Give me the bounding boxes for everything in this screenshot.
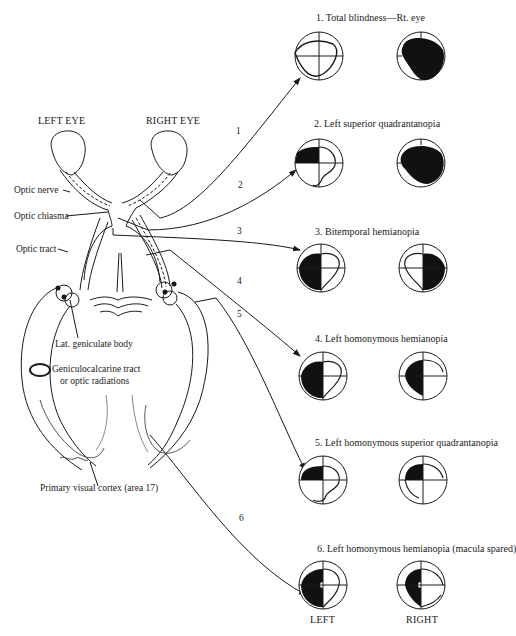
lat-geniculate-body-label: Lat. geniculate body <box>55 340 133 350</box>
right-eye-label: RIGHT EYE <box>146 115 200 126</box>
field-5-left <box>299 456 347 504</box>
primary-visual-cortex-label: Primary visual cortex (area 17) <box>40 484 158 494</box>
lesion-line-4 <box>146 250 300 356</box>
field-4-left <box>299 352 347 400</box>
lesion-number-5: 5 <box>237 309 242 319</box>
field-2-left <box>295 139 343 187</box>
lesion-line-5 <box>195 298 305 470</box>
field-1-left <box>295 32 343 80</box>
caption-3: 3. Bitemporal hemianopia <box>315 226 419 237</box>
lesion-line-3 <box>113 228 300 250</box>
field-1-right <box>397 32 445 80</box>
lesion-line-2 <box>118 170 296 230</box>
lesion-number-3: 3 <box>237 226 242 236</box>
field-5-right <box>399 456 447 504</box>
right-eyeball <box>151 131 187 175</box>
caption-2: 2. Left superior quadrantanopia <box>314 118 440 129</box>
caption-6: 6. Left homonymous hemianopia (macula sp… <box>317 543 516 554</box>
optic-tract-label: Optic tract <box>16 245 56 255</box>
left-column-label: LEFT <box>310 614 335 625</box>
left-eye-label: LEFT EYE <box>38 115 85 126</box>
optic-chiasma-label: Optic chiasma <box>14 212 69 222</box>
field-6-right <box>397 561 445 609</box>
geniculocalcarine-tract-label: Geniculocalcarine tract <box>52 365 140 375</box>
right-column-label: RIGHT <box>406 614 438 625</box>
field-4-right <box>399 352 447 400</box>
optic-nerve-label: Optic nerve <box>14 186 59 196</box>
caption-5: 5. Left homonymous superior quadrantanop… <box>315 437 498 448</box>
field-2-right <box>397 139 445 187</box>
optic-radiations-label: or optic radiations <box>60 377 129 387</box>
field-6-left <box>299 561 347 609</box>
lesion-number-1: 1 <box>236 126 241 136</box>
left-eyeball <box>51 131 85 175</box>
field-3-right <box>399 244 447 292</box>
lesion-line-6 <box>150 435 306 595</box>
caption-1: 1. Total blindness—Rt. eye <box>316 12 425 23</box>
lesion-line-1 <box>140 78 300 218</box>
field-3-left <box>297 244 345 292</box>
caption-4: 4. Left homonymous hemianopia <box>315 333 448 344</box>
lesion-number-2: 2 <box>238 180 243 190</box>
lesion-number-4: 4 <box>237 276 242 286</box>
lesion-number-6: 6 <box>239 513 244 523</box>
